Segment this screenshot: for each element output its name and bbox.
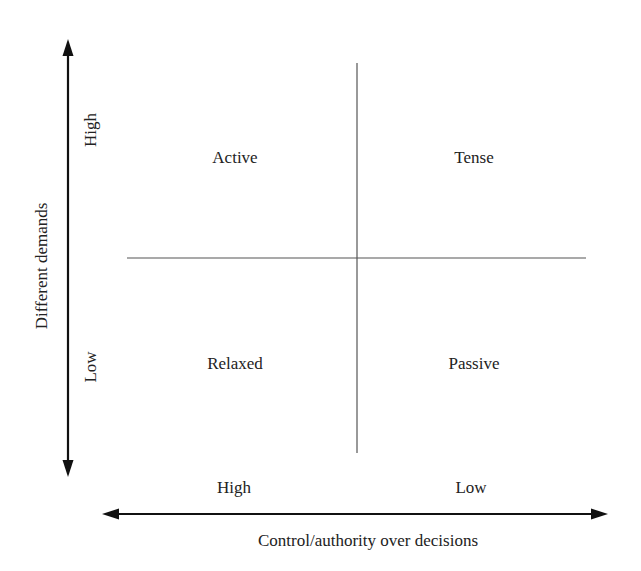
x-axis-arrow [102, 509, 608, 520]
y-axis-arrow [63, 39, 74, 477]
quadrant-tense: Tense [454, 148, 493, 168]
y-axis-high-label: High [81, 113, 101, 147]
quadrant-passive: Passive [449, 354, 500, 374]
quadrant-active: Active [212, 148, 257, 168]
x-axis-low-label: Low [455, 478, 486, 498]
quadrant-relaxed: Relaxed [207, 354, 263, 374]
x-axis-title: Control/authority over decisions [258, 531, 478, 551]
y-axis-title: Different demands [32, 203, 52, 330]
y-axis-low-label: Low [81, 351, 101, 382]
x-axis-high-label: High [217, 478, 251, 498]
diagram-lines [0, 0, 641, 571]
